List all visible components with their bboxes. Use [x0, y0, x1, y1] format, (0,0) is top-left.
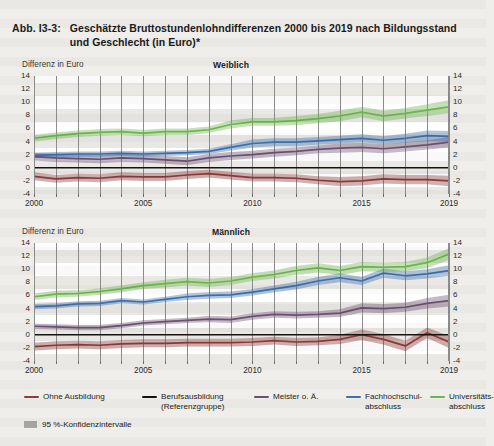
x-axis-tick: [296, 361, 297, 364]
legend-color-swatch: [346, 396, 361, 398]
x-axis-tick: [296, 194, 297, 197]
chart-legend: Ohne AusbildungBerufsausbildung (Referen…: [24, 392, 478, 438]
y-axis-right: [448, 243, 449, 361]
x-axis-tick: [143, 361, 144, 364]
x-axis-tick: [121, 194, 122, 197]
y-axis-tick-label: 4: [453, 305, 475, 313]
y-axis-tick-label: 8: [8, 278, 30, 286]
x-axis-tick-label: 2015: [342, 366, 382, 375]
panel-title-weiblich: Weiblich: [0, 60, 474, 70]
x-axis-tick: [187, 194, 188, 197]
x-axis-tick-label: 2015: [342, 199, 382, 208]
x-axis-tick: [143, 194, 144, 197]
y-axis-right: [448, 76, 449, 194]
y-axis-tick-label: -2: [453, 344, 475, 352]
confidence-interval-label: 95 %-Konfidenzintervalle: [42, 420, 132, 430]
x-axis-tick-label: 2005: [123, 199, 163, 208]
y-axis-tick-label: 6: [453, 291, 475, 299]
panel-header-weiblich: Differenz in Euro Weiblich: [0, 60, 486, 74]
y-axis-tick-label: 4: [8, 138, 30, 146]
series-layer: [34, 76, 449, 194]
figure-title-block: Abb. I3-3: Geschätzte Bruttostundenlohnd…: [12, 22, 476, 49]
legend-confidence-interval: 95 %-Konfidenzintervalle: [24, 420, 132, 430]
legend-item[interactable]: Ohne Ausbildung: [24, 392, 105, 402]
x-axis-tick: [318, 361, 319, 364]
legend-item-label: Fachhochschul- abschluss: [365, 392, 422, 411]
legend-item-label: Ohne Ausbildung: [43, 392, 105, 402]
y-axis-tick-label: 14: [8, 239, 30, 247]
y-axis-tick-label: 2: [453, 318, 475, 326]
legend-color-swatch: [142, 396, 157, 398]
x-axis-tick: [187, 361, 188, 364]
x-axis-tick: [209, 361, 210, 364]
x-axis-tick: [383, 194, 384, 197]
y-axis-tick-label: 8: [8, 111, 30, 119]
y-axis-tick-label: 0: [8, 331, 30, 339]
y-axis-tick-label: -2: [453, 177, 475, 185]
y-axis-tick-label: 4: [453, 138, 475, 146]
y-axis-tick-label: -2: [8, 177, 30, 185]
x-axis-tick: [231, 194, 232, 197]
confidence-band: [34, 295, 449, 330]
y-axis-tick-label: 14: [453, 72, 475, 80]
x-axis-tick: [56, 361, 57, 364]
y-axis-tick-label: 8: [453, 278, 475, 286]
x-axis-tick: [56, 194, 57, 197]
y-axis-tick-label: 6: [8, 291, 30, 299]
y-axis-tick-label: -2: [8, 344, 30, 352]
y-axis-tick-label: 0: [8, 164, 30, 172]
x-axis-tick: [252, 194, 253, 197]
x-axis-tick: [405, 361, 406, 364]
x-axis-tick: [274, 194, 275, 197]
y-axis-tick-label: 8: [453, 111, 475, 119]
y-axis-tick-label: 6: [453, 124, 475, 132]
x-axis-tick: [100, 194, 101, 197]
y-axis-tick-label: -4: [453, 357, 475, 365]
x-axis-tick: [362, 361, 363, 364]
y-axis-tick-label: 10: [8, 265, 30, 273]
page-title: Geschätzte Bruttostundenlohndifferenzen …: [70, 22, 476, 49]
x-axis-tick-label: 2010: [232, 366, 272, 375]
x-axis-tick: [340, 194, 341, 197]
x-axis-tick: [34, 361, 35, 364]
x-axis-tick: [274, 361, 275, 364]
y-axis-tick-label: 10: [453, 265, 475, 273]
legend-color-swatch: [430, 396, 445, 398]
y-axis-tick-label: 14: [453, 239, 475, 247]
confidence-band: [34, 100, 449, 141]
y-axis-tick-label: 4: [8, 305, 30, 313]
gridline-vertical: [449, 243, 450, 361]
legend-item-label: Meister o. Ä.: [273, 392, 318, 402]
legend-item-label: Berufsausbildung (Referenzgruppe): [161, 392, 224, 411]
x-axis-tick: [209, 194, 210, 197]
figure-number: Abb. I3-3:: [12, 22, 61, 34]
x-axis-tick-label: 2019: [429, 199, 469, 208]
legend-item[interactable]: Universitäts- abschluss: [430, 392, 494, 411]
legend-item[interactable]: Fachhochschul- abschluss: [346, 392, 422, 411]
y-axis-tick-label: 0: [453, 164, 475, 172]
x-axis-tick: [34, 194, 35, 197]
legend-item-label: Universitäts- abschluss: [449, 392, 494, 411]
x-axis-tick: [340, 361, 341, 364]
y-axis-left: [34, 76, 35, 194]
y-axis-tick-label: 12: [453, 252, 475, 260]
x-axis-tick: [252, 361, 253, 364]
legend-item[interactable]: Meister o. Ä.: [254, 392, 318, 402]
y-axis-tick-label: 10: [453, 98, 475, 106]
x-axis-tick: [362, 194, 363, 197]
gridline-vertical: [449, 76, 450, 194]
x-axis-tick: [427, 361, 428, 364]
y-axis-tick-label: -4: [8, 357, 30, 365]
x-axis-tick-label: 2005: [123, 366, 163, 375]
panel-title-maennlich: Männlich: [0, 227, 474, 237]
x-axis-tick: [78, 361, 79, 364]
legend-item[interactable]: Berufsausbildung (Referenzgruppe): [142, 392, 224, 411]
confidence-band: [34, 328, 449, 352]
series-layer: [34, 243, 449, 361]
y-axis-tick-label: 2: [8, 151, 30, 159]
plot-area-weiblich: -4-4-2-200224466881010121214142000200520…: [0, 76, 486, 218]
y-axis-tick-label: -4: [8, 190, 30, 198]
x-axis-tick: [231, 361, 232, 364]
y-axis-tick-label: 14: [8, 72, 30, 80]
